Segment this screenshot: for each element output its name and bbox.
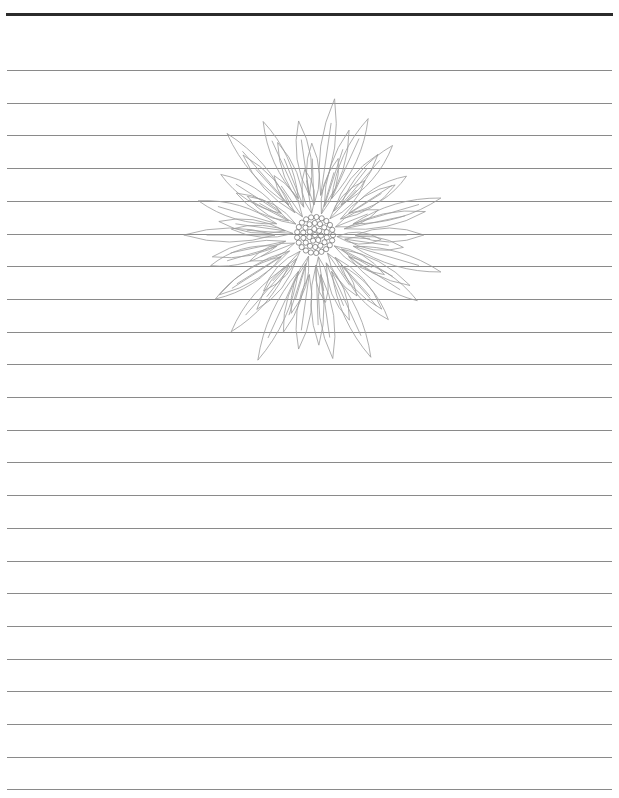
- ruled-line: [7, 626, 612, 627]
- ruled-line: [7, 528, 612, 529]
- ruled-line: [7, 462, 612, 463]
- ruled-line: [7, 789, 612, 790]
- ruled-line: [7, 724, 612, 725]
- ruled-line: [7, 397, 612, 398]
- ruled-line: [7, 593, 612, 594]
- ruled-line: [7, 70, 612, 71]
- ruled-line: [7, 430, 612, 431]
- ruled-line: [7, 691, 612, 692]
- flower-illustration-icon: [180, 95, 450, 367]
- ruled-line: [7, 659, 612, 660]
- ruled-line: [7, 495, 612, 496]
- top-rule: [6, 13, 613, 16]
- ruled-line: [7, 757, 612, 758]
- ruled-line: [7, 561, 612, 562]
